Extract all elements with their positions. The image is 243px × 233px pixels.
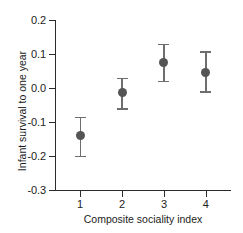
y-axis-tick [49, 156, 55, 157]
y-axis-tick [49, 122, 55, 123]
scatter-plot-figure: 0.20.10.0-0.1-0.2-0.3 1234 Composite soc… [0, 0, 243, 233]
x-axis-tick-label: 2 [110, 198, 134, 210]
data-point-marker [159, 58, 168, 67]
errorbar-cap [200, 91, 211, 92]
data-point-marker [201, 68, 210, 77]
errorbar-cap [75, 156, 86, 157]
data-point-marker [118, 88, 127, 97]
data-point-marker [76, 131, 85, 140]
y-axis-tick [49, 20, 55, 21]
errorbar-cap [75, 117, 86, 118]
y-axis-tick [49, 88, 55, 89]
x-axis-tick-label: 1 [68, 198, 92, 210]
x-axis-tick [80, 191, 81, 197]
errorbar-cap [117, 108, 128, 109]
errorbar-cap [158, 81, 169, 82]
x-axis-tick [206, 191, 207, 197]
errorbar-cap [158, 44, 169, 45]
y-axis-tick [49, 190, 55, 191]
errorbar-cap [200, 51, 211, 52]
x-axis-tick-label: 3 [152, 198, 176, 210]
errorbar-cap [117, 78, 128, 79]
x-axis-label: Composite sociality index [55, 213, 231, 225]
y-axis-tick-label: 0.2 [0, 14, 46, 26]
y-axis-label: Infant survival to one year [16, 26, 28, 196]
x-axis-tick-label: 4 [194, 198, 218, 210]
x-axis-line [55, 190, 231, 191]
x-axis-tick [164, 191, 165, 197]
y-axis-tick [49, 54, 55, 55]
x-axis-tick [122, 191, 123, 197]
y-axis-line [55, 20, 56, 191]
